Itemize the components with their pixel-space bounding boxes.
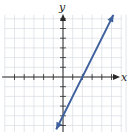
y-axis-arrow-icon	[60, 14, 66, 21]
grid	[5, 15, 126, 132]
chart: x y	[0, 0, 130, 132]
x-axis-arrow-icon	[113, 74, 120, 80]
y-axis-label: y	[58, 1, 66, 14]
series-group	[56, 15, 113, 129]
series-line	[56, 15, 113, 129]
axes	[2, 14, 120, 132]
x-axis-label: x	[121, 71, 128, 84]
